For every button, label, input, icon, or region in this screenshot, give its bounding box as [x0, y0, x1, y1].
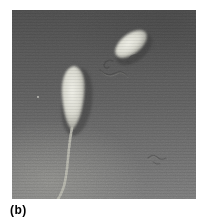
figure-label: (b): [10, 203, 27, 217]
micrograph-canvas: [12, 10, 196, 199]
film-grain-overlay: [12, 10, 196, 199]
micrograph-photo: [12, 10, 196, 199]
figure-container: (b): [0, 0, 205, 222]
